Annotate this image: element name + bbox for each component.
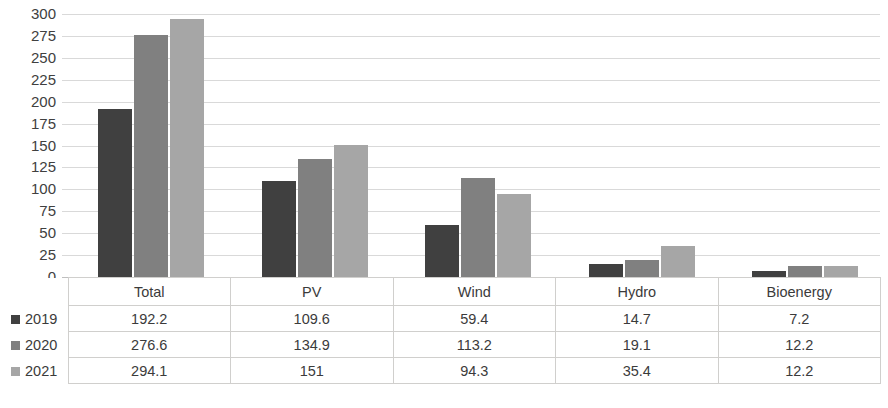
table-cell-value: 35.4 xyxy=(556,358,719,384)
y-axis-tick-label: 25 xyxy=(2,247,56,262)
legend-entry: 2021 xyxy=(5,358,68,384)
y-axis-tick-label: 150 xyxy=(2,138,56,153)
legend-series-label: 2019 xyxy=(25,311,57,327)
table-cell-value: 12.2 xyxy=(718,332,881,358)
data-table-body: TotalPVWindHydroBioenergy2019192.2109.65… xyxy=(5,278,881,384)
y-axis-tick-label: 75 xyxy=(2,203,56,218)
table-row: 2021294.115194.335.412.2 xyxy=(5,358,881,384)
table-column-header: Bioenergy xyxy=(718,278,881,306)
bar-chart-with-data-table: 3002752502252001751501251007550250 Total… xyxy=(0,0,888,408)
legend-swatch-icon xyxy=(11,315,20,324)
y-axis-tick-label: 175 xyxy=(2,116,56,131)
table-cell-value: 94.3 xyxy=(393,358,556,384)
bar-group xyxy=(260,14,390,277)
table-row: 2019192.2109.659.414.77.2 xyxy=(5,306,881,332)
legend-series-label: 2021 xyxy=(25,363,57,379)
table-cell-value: 19.1 xyxy=(556,332,719,358)
table-cell-value: 276.6 xyxy=(68,332,231,358)
y-axis-tick-label: 275 xyxy=(2,28,56,43)
y-axis-tick-label: 225 xyxy=(2,72,56,87)
bar-group xyxy=(423,14,553,277)
bar-groups xyxy=(62,14,880,277)
table-cell-value: 113.2 xyxy=(393,332,556,358)
bar-group xyxy=(750,14,880,277)
legend-entry: 2020 xyxy=(5,332,68,358)
table-column-header: Hydro xyxy=(556,278,719,306)
plot-region: 3002752502252001751501251007550250 xyxy=(0,0,888,290)
legend-swatch-icon xyxy=(11,341,20,350)
bar[interactable] xyxy=(334,145,368,277)
bar[interactable] xyxy=(824,266,858,277)
bar[interactable] xyxy=(98,109,132,277)
table-cell-value: 59.4 xyxy=(393,306,556,332)
table-column-header: Wind xyxy=(393,278,556,306)
table-cell-value: 151 xyxy=(231,358,394,384)
table-cell-value: 12.2 xyxy=(718,358,881,384)
y-axis-tick-label: 200 xyxy=(2,94,56,109)
table-cell-value: 192.2 xyxy=(68,306,231,332)
table-corner-cell xyxy=(5,278,68,306)
table-cell-value: 294.1 xyxy=(68,358,231,384)
bar[interactable] xyxy=(134,35,168,277)
legend-entry: 2019 xyxy=(5,306,68,332)
y-axis-tick-label: 50 xyxy=(2,225,56,240)
table-header-row: TotalPVWindHydroBioenergy xyxy=(5,278,881,306)
bar[interactable] xyxy=(661,246,695,277)
y-axis-tick-label: 125 xyxy=(2,159,56,174)
y-axis-tick-label: 250 xyxy=(2,50,56,65)
table-row: 2020276.6134.9113.219.112.2 xyxy=(5,332,881,358)
bar[interactable] xyxy=(170,19,204,277)
bar[interactable] xyxy=(461,178,495,277)
plot-area xyxy=(62,14,880,277)
bar-group xyxy=(587,14,717,277)
bar[interactable] xyxy=(425,225,459,277)
bar-group xyxy=(96,14,226,277)
bar[interactable] xyxy=(262,181,296,277)
table-cell-value: 7.2 xyxy=(718,306,881,332)
bar[interactable] xyxy=(497,194,531,277)
y-axis: 3002752502252001751501251007550250 xyxy=(0,0,56,290)
y-axis-tick-label: 300 xyxy=(2,6,56,21)
table-column-header: PV xyxy=(231,278,394,306)
bar[interactable] xyxy=(589,264,623,277)
table-column-header: Total xyxy=(68,278,231,306)
table-cell-value: 134.9 xyxy=(231,332,394,358)
legend-swatch-icon xyxy=(11,367,20,376)
table-cell-value: 14.7 xyxy=(556,306,719,332)
bar[interactable] xyxy=(625,260,659,277)
bar[interactable] xyxy=(788,266,822,277)
data-table: TotalPVWindHydroBioenergy2019192.2109.65… xyxy=(5,277,881,384)
bar[interactable] xyxy=(298,159,332,277)
legend-series-label: 2020 xyxy=(25,337,57,353)
y-axis-tick-label: 100 xyxy=(2,181,56,196)
table-cell-value: 109.6 xyxy=(231,306,394,332)
